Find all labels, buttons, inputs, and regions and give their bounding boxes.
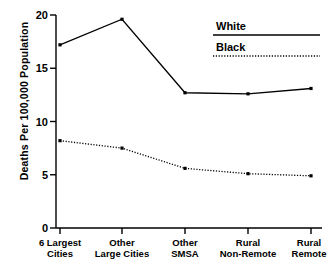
data-point <box>246 172 249 175</box>
x-tick-label-rural-remote: Rural Remote <box>292 237 327 259</box>
data-point <box>309 174 312 177</box>
plot-area <box>0 0 334 263</box>
x-tick-line2: Cities <box>39 248 81 259</box>
data-point <box>58 139 61 142</box>
x-tick-line2: Remote <box>292 248 327 259</box>
series-line-black <box>60 141 311 176</box>
x-tick-line2: SMSA <box>171 248 198 259</box>
data-point <box>246 92 249 95</box>
x-tick-line1: Other <box>95 237 149 248</box>
x-tick-label-other-large-cities: Other Large Cities <box>95 237 149 259</box>
x-tick-line2: Non-Remote <box>220 248 276 259</box>
data-point <box>120 18 123 21</box>
data-point <box>58 43 61 46</box>
chart-container: Deaths Per 100,000 Population 20 15 10 5… <box>0 0 334 263</box>
data-point <box>183 91 186 94</box>
series-line-white <box>60 19 311 94</box>
data-point <box>120 147 123 150</box>
x-tick-label-other-smsa: Other SMSA <box>171 237 198 259</box>
data-point <box>183 167 186 170</box>
data-point <box>309 87 312 90</box>
axes <box>50 15 322 234</box>
x-tick-line2: Large Cities <box>95 248 149 259</box>
legend-label-black: Black <box>216 41 245 53</box>
x-tick-label-6-largest-cities: 6 Largest Cities <box>39 237 81 259</box>
x-tick-label-rural-non-remote: Rural Non-Remote <box>220 237 276 259</box>
x-tick-line1: Rural <box>292 237 327 248</box>
x-tick-line1: 6 Largest <box>39 237 81 248</box>
x-tick-line1: Rural <box>220 237 276 248</box>
legend-label-white: White <box>216 20 246 32</box>
x-tick-line1: Other <box>171 237 198 248</box>
